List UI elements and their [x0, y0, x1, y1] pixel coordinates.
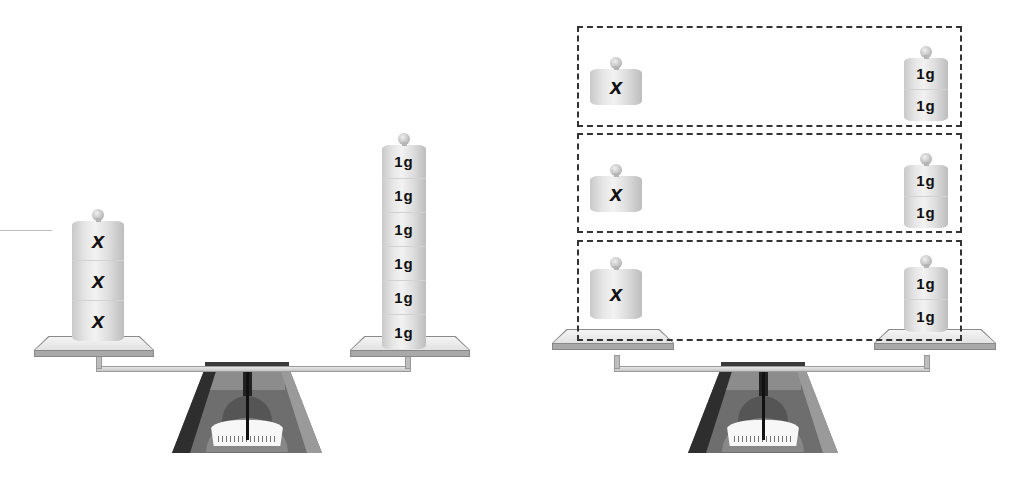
x-weight-stack: x x x [72, 209, 124, 341]
x-weight-stack: x [590, 164, 642, 212]
x-weight: x [590, 269, 642, 319]
gram-weight: 1g [904, 267, 948, 300]
x-weight-stack: x [590, 257, 642, 319]
scale-needle [246, 366, 249, 440]
gram-weight-stack: 1g 1g [904, 153, 948, 228]
gram-weight-stack: 1g 1g 1g 1g 1g 1g [382, 133, 426, 349]
gram-weight: 1g [904, 165, 948, 197]
right-pan-post [924, 355, 930, 369]
x-weight: x [72, 221, 124, 261]
gram-weight: 1g [382, 281, 426, 315]
gram-weight: 1g [382, 179, 426, 213]
x-weight-stack: x [590, 57, 642, 105]
gram-weight-stack: 1g 1g [904, 46, 948, 121]
gram-weight: 1g [382, 145, 426, 179]
gram-weight: 1g [382, 213, 426, 247]
scale-beam [96, 366, 411, 372]
scale-base [172, 368, 322, 453]
x-weight: x [590, 176, 642, 212]
x-weight: x [590, 69, 642, 105]
gram-weight: 1g [382, 247, 426, 281]
gram-weight: 1g [904, 300, 948, 332]
gram-weight-stack: 1g 1g [904, 255, 948, 332]
x-weight: x [72, 301, 124, 341]
decorative-line [0, 230, 52, 231]
left-pan-post [614, 355, 620, 369]
gram-weight: 1g [382, 315, 426, 349]
gram-weight: 1g [904, 58, 948, 90]
scale-beam [614, 366, 930, 372]
x-weight: x [72, 261, 124, 301]
scale-base [688, 368, 838, 453]
gram-weight: 1g [904, 90, 948, 121]
gram-weight: 1g [904, 197, 948, 228]
scale-needle [762, 366, 765, 440]
